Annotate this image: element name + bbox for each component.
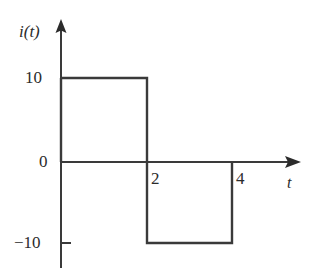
x-tick-label-2: 2 [151,170,160,187]
x-tick-label-4: 4 [236,170,245,187]
figure-root: i(t) t 10 0 −10 2 4 [0,0,317,279]
y-tick-label-neg10: −10 [14,234,41,251]
waveform-trace [61,78,232,243]
y-tick-label-10: 10 [25,69,42,86]
plot-canvas [0,0,317,279]
y-tick-label-0: 0 [39,153,48,170]
y-axis-label: i(t) [19,23,40,40]
x-axis-label: t [287,175,291,191]
